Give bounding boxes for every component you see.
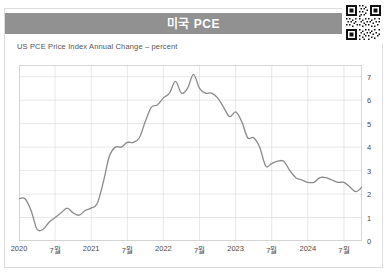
screenshot-root: 미국 PCE [0, 0, 388, 276]
y-tick-label: 0 [367, 237, 371, 246]
y-tick-label: 7 [367, 72, 371, 81]
y-tick-label: 2 [367, 190, 371, 199]
y-axis-tick-labels: 01234567 [0, 0, 388, 276]
y-tick-label: 4 [367, 143, 371, 152]
y-tick-label: 3 [367, 166, 371, 175]
y-tick-label: 6 [367, 96, 371, 105]
y-tick-label: 1 [367, 213, 371, 222]
y-tick-label: 5 [367, 119, 371, 128]
